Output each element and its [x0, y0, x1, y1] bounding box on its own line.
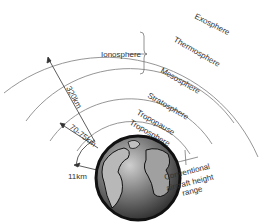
- atmosphere-diagram: Exosphere Thermosphere Mesosphere Strato…: [0, 0, 274, 222]
- thermosphere-label: Thermosphere: [172, 35, 222, 69]
- exosphere-label: Exosphere: [193, 12, 232, 38]
- troposphere-height-label: 11km: [68, 172, 87, 181]
- ionosphere-height-label: 320km: [64, 85, 83, 111]
- thermosphere-boundary-arc: [26, 69, 234, 123]
- ionosphere-label: Ionosphere: [101, 50, 142, 59]
- mesosphere-label: Mesosphere: [159, 66, 202, 96]
- stratosphere-height-label: 70-75km: [68, 122, 98, 148]
